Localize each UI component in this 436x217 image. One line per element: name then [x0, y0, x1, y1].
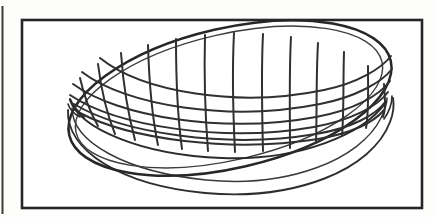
figure-canvas: [0, 0, 436, 217]
figure-page: [0, 0, 436, 217]
mesh-wire-v-9: [262, 34, 263, 151]
